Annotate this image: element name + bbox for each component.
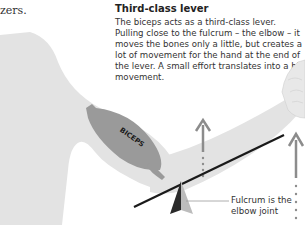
forearm-shape: [150, 100, 300, 194]
lever-diagram: BICEPS: [0, 0, 305, 225]
fulcrum-label: Fulcrum is the elbow joint: [231, 195, 301, 217]
torso-shape: [0, 32, 172, 225]
